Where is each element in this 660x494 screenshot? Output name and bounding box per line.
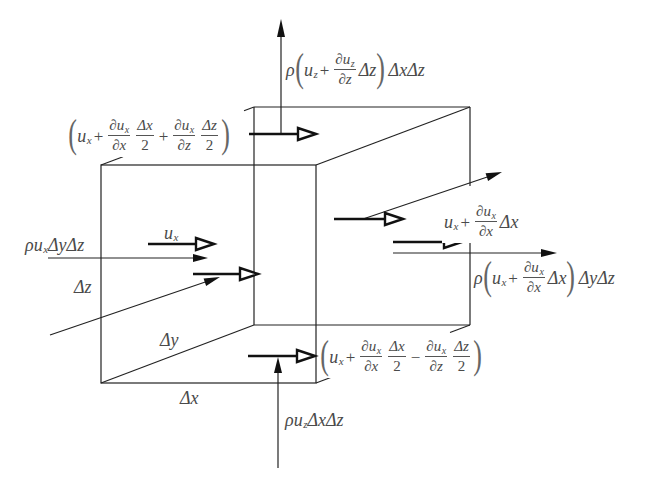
- fraction-numerator: Δx: [388, 339, 405, 355]
- fraction-denominator: 2: [205, 138, 215, 154]
- velocity-arrow-outlet-upper: [334, 213, 403, 225]
- fraction-denominator: ∂z: [429, 359, 444, 375]
- numerator-subscript: x: [442, 345, 446, 356]
- connector-bottom-right-b: [450, 325, 470, 333]
- arrow-z-inflow-up: [274, 357, 282, 468]
- flux-head: ρu: [25, 236, 43, 254]
- velocity-u: u: [329, 348, 338, 366]
- fraction-bar: [360, 356, 382, 357]
- area-term: ΔxΔz: [389, 61, 425, 79]
- fraction-numerator: Δz: [201, 118, 218, 134]
- label-outlet-flux: ρ ( ux + ∂ux ∂x Δx ) ΔyΔz: [474, 258, 615, 298]
- plus-sign: +: [346, 349, 356, 366]
- rho-symbol: ρ: [474, 269, 483, 287]
- left-paren: (: [483, 256, 492, 296]
- delta-term: Δx: [500, 213, 519, 231]
- flux-area: ΔxΔz: [307, 411, 343, 429]
- label-dx: Δx: [180, 387, 199, 409]
- half-dx-fraction: Δx 2: [136, 118, 153, 154]
- fraction-numerator: ∂u: [174, 117, 189, 133]
- half-dx-fraction: Δx 2: [388, 339, 405, 375]
- fraction-numerator: ∂u: [524, 259, 539, 275]
- fraction-numerator: ∂u: [109, 117, 124, 133]
- numerator-subscript: x: [377, 345, 381, 356]
- velocity-subscript: x: [339, 356, 344, 367]
- flux-head: ρu: [285, 411, 303, 429]
- fraction-bar: [334, 69, 355, 70]
- fraction-denominator: ∂x: [111, 138, 127, 154]
- partial-derivative-fraction-x: ∂ux ∂x: [108, 118, 130, 154]
- dy-text: Δy: [160, 331, 179, 349]
- fraction-denominator: 2: [140, 138, 150, 154]
- velocity-subscript: x: [87, 135, 92, 146]
- arrow-z-outflow-up: [277, 19, 285, 134]
- dx-text: Δx: [180, 389, 199, 407]
- connector-top-left-b: [244, 107, 254, 111]
- fraction-numerator: ∂u: [476, 203, 491, 219]
- fraction-bar: [108, 135, 130, 136]
- numerator-subscript: x: [190, 124, 194, 135]
- left-paren: (: [68, 114, 77, 154]
- fraction-denominator: ∂x: [363, 359, 379, 375]
- label-bottom-z-inflow: ρuzΔxΔz: [285, 409, 344, 431]
- fraction-denominator: ∂x: [478, 224, 494, 240]
- fraction-bar: [475, 221, 497, 222]
- velocity-arrow-bottom-face: [248, 350, 315, 362]
- flux-subscript: x: [43, 244, 48, 255]
- right-paren: ): [473, 335, 482, 375]
- fraction-numerator: ∂u: [361, 338, 376, 354]
- label-top-face-velocity: ( ux + ∂ux ∂x Δx 2 + ∂ux ∂z Δz 2 ): [68, 115, 232, 157]
- label-inlet-flux: ρuxΔyΔz: [25, 234, 84, 256]
- velocity-subscript: x: [454, 221, 459, 232]
- label-dy: Δy: [160, 329, 179, 351]
- velocity-subscript: z: [313, 69, 317, 80]
- numerator-subscript: x: [125, 124, 129, 135]
- velocity-arrow-top-face: [249, 128, 316, 140]
- label-inlet-velocity: ux: [164, 222, 178, 244]
- fraction-denominator: ∂z: [337, 72, 352, 88]
- connector-top-left-a: [101, 157, 123, 165]
- plus-sign: +: [508, 270, 518, 287]
- fraction-denominator: ∂x: [526, 280, 542, 296]
- plus-sign: +: [159, 128, 169, 145]
- label-outlet-velocity: ux + ∂ux ∂x Δx: [442, 201, 520, 243]
- fraction-bar: [136, 135, 153, 136]
- fraction-numerator: Δx: [136, 118, 153, 134]
- plus-sign: +: [320, 62, 330, 79]
- partial-derivative-fraction: ∂ux ∂x: [523, 260, 545, 296]
- dz-text: Δz: [74, 278, 92, 296]
- fraction-numerator: ∂u: [335, 51, 350, 67]
- fraction-denominator: 2: [457, 359, 467, 375]
- right-paren: ): [377, 48, 386, 88]
- flux-subscript: z: [303, 419, 307, 430]
- velocity-subscript: x: [501, 277, 506, 288]
- numerator-subscript: x: [539, 266, 543, 277]
- fraction-bar: [201, 135, 218, 136]
- arrow-x-outflow: [393, 249, 557, 257]
- numerator-subscript: x: [491, 210, 495, 221]
- fraction-bar: [173, 135, 195, 136]
- right-paren: ): [567, 256, 576, 296]
- delta-term: Δz: [359, 61, 377, 79]
- area-term: ΔyΔz: [579, 269, 615, 287]
- flux-area: ΔyΔz: [48, 236, 84, 254]
- plus-sign: +: [94, 128, 104, 145]
- fraction-denominator: ∂z: [177, 138, 192, 154]
- partial-derivative-fraction: ∂uz ∂z: [334, 52, 355, 88]
- velocity-arrows-open: [148, 128, 462, 362]
- numerator-subscript: z: [351, 58, 355, 69]
- velocity-u: u: [444, 213, 453, 231]
- partial-derivative-fraction: ∂ux ∂x: [475, 204, 497, 240]
- fraction-bar: [425, 356, 447, 357]
- velocity-arrow-inlet: [148, 238, 214, 250]
- velocity-u: u: [77, 127, 86, 145]
- half-dz-fraction: Δz 2: [453, 339, 470, 375]
- label-bottom-face-velocity: ( ux + ∂ux ∂x Δx 2 − ∂ux ∂z Δz 2 ): [320, 336, 484, 378]
- minus-sign: −: [411, 349, 421, 366]
- velocity-arrow-inlet-lower: [193, 268, 258, 280]
- fraction-bar: [453, 356, 470, 357]
- delta-term: Δx: [548, 269, 567, 287]
- plus-sign: +: [460, 214, 470, 231]
- right-paren: ): [221, 114, 230, 154]
- label-top-z-outflow: ρ ( uz + ∂uz ∂z Δz ) ΔxΔz: [286, 50, 425, 90]
